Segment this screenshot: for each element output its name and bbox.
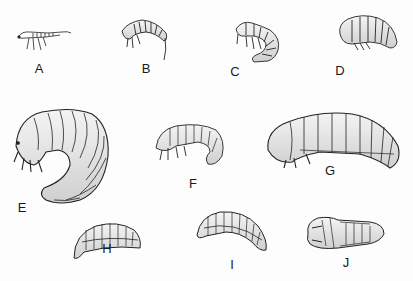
label-f: F: [189, 177, 197, 190]
larva-g: [268, 113, 399, 168]
label-j: J: [343, 256, 350, 269]
label-e: E: [18, 201, 27, 214]
larva-a: [18, 32, 71, 50]
label-c: C: [230, 65, 239, 78]
larva-f: [156, 125, 223, 165]
larva-c: [236, 22, 279, 62]
pupa-j: [307, 217, 384, 248]
larva-d: [340, 16, 397, 50]
label-i: I: [230, 258, 234, 271]
label-a: A: [35, 62, 44, 75]
larva-i: [197, 212, 266, 251]
label-h: H: [102, 242, 111, 255]
label-d: D: [335, 64, 344, 77]
larva-e: [14, 109, 108, 203]
larvae-illustration: [0, 0, 413, 281]
label-g: G: [325, 164, 335, 177]
larva-b: [122, 20, 167, 60]
label-b: B: [142, 62, 151, 75]
illustration-plate: A B C D E F G H I J: [0, 0, 413, 281]
